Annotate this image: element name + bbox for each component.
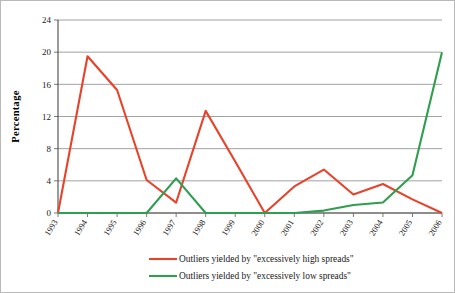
y-tick-label-12: 12 [42,112,51,122]
x-tick-label-2001: 2001 [278,218,296,238]
x-tick-label-2002: 2002 [308,218,326,238]
x-tick-label-2005: 2005 [397,218,415,238]
legend-label-high-spreads: Outliers yielded by "excessively high sp… [179,254,354,264]
x-tick-label-1994: 1994 [72,217,90,237]
legend-label-low-spreads: Outliers yielded by "excessively low spr… [179,271,351,281]
x-tick-label-2000: 2000 [249,218,267,238]
y-tick-label-8: 8 [47,144,52,154]
x-tick-label-1996: 1996 [131,217,149,237]
y-tick-label-24: 24 [42,15,52,25]
y-axis-title: Percentage [10,90,21,142]
line-chart: 0481216202419931994199519961997199819992… [1,1,455,293]
x-tick-label-2006: 2006 [426,217,444,237]
chart-figure: 0481216202419931994199519961997199819992… [0,0,455,293]
x-tick-label-1998: 1998 [190,218,208,238]
x-tick-label-1999: 1999 [219,218,237,238]
series-line-high-spreads [58,56,442,213]
x-tick-label-2003: 2003 [337,218,355,238]
y-tick-label-4: 4 [47,176,52,186]
x-tick-label-1993: 1993 [42,218,60,238]
y-tick-label-0: 0 [47,208,52,218]
x-tick-label-1997: 1997 [160,217,178,237]
x-tick-label-2004: 2004 [367,217,385,237]
y-tick-label-20: 20 [42,47,52,57]
x-tick-label-1995: 1995 [101,218,119,238]
y-tick-label-16: 16 [42,80,52,90]
